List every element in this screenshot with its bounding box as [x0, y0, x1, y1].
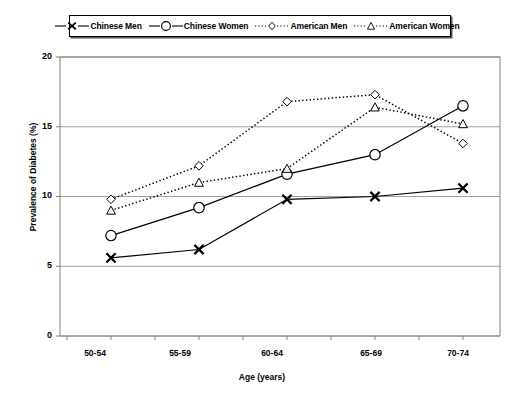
gridlines — [60, 57, 500, 336]
series-american-men — [107, 90, 468, 203]
plot-area — [0, 0, 524, 396]
series-american-women — [107, 103, 468, 214]
y-axis-ticks — [56, 57, 60, 336]
diabetes-prevalence-chart: Chinese Men Chinese Women American M — [0, 0, 524, 396]
series-layer — [106, 90, 468, 262]
x-axis-ticks — [67, 336, 463, 340]
